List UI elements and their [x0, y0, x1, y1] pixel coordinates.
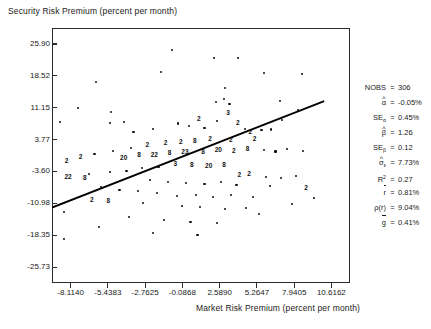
data-point-count: 8: [168, 150, 172, 157]
statistic-symbol: SEα: [356, 114, 389, 125]
data-point-count: 8: [201, 148, 205, 155]
statistic-equals: =: [389, 129, 396, 137]
data-point: [203, 183, 205, 185]
statistic-row: ^α=-0.05%: [356, 99, 430, 114]
data-point: [260, 129, 262, 131]
statistic-row: SEβ=0.12: [356, 144, 430, 159]
data-point: [123, 121, 125, 123]
y-tick-label: -3.60: [0, 166, 58, 176]
data-point: [152, 232, 154, 234]
data-point-count: 2: [237, 172, 241, 179]
statistic-value: 306: [396, 84, 411, 92]
y-tick-label: 25.90: [0, 39, 58, 49]
statistic-equals: =: [389, 219, 396, 227]
data-point: [252, 196, 254, 198]
data-point: [263, 72, 265, 74]
data-point: [77, 107, 79, 109]
data-point: [93, 153, 95, 155]
x-tick-label: 10.6162: [301, 288, 361, 297]
data-point-count: 3: [226, 109, 230, 116]
data-point: [156, 192, 158, 194]
statistic-row: g=0.41%: [356, 219, 430, 234]
statistic-value: 1.26: [396, 129, 413, 137]
statistic-value: -0.05%: [396, 99, 422, 107]
data-point: [149, 179, 151, 181]
data-layer: 322222282222223820288228203820822822228: [52, 28, 350, 283]
data-point-count: 8: [137, 152, 141, 159]
data-point: [88, 173, 90, 175]
statistic-row: NOBS=306: [356, 84, 430, 99]
data-point: [297, 109, 299, 111]
regression-line: [52, 28, 350, 283]
statistic-row: SEα=0.45%: [356, 114, 430, 129]
statistic-symbol: NOBS: [356, 84, 389, 92]
data-point-count: 2: [229, 137, 233, 144]
data-point: [220, 181, 222, 183]
statistic-symbol: SEβ: [356, 144, 389, 155]
data-point: [301, 73, 303, 75]
scatter-plot-figure: Security Risk Premium (percent per month…: [0, 0, 431, 329]
data-point: [163, 219, 165, 221]
x-tick-mark: [182, 283, 183, 288]
y-tick-label: -18.35: [0, 230, 58, 240]
data-point: [228, 103, 230, 105]
data-point: [95, 81, 97, 83]
data-point: [132, 131, 134, 133]
statistic-equals: =: [389, 144, 396, 152]
data-point: [137, 190, 139, 192]
statistic-symbol: ^α: [356, 99, 389, 107]
x-tick-mark: [256, 283, 257, 288]
data-point-count: 8: [107, 198, 111, 205]
data-point: [224, 208, 226, 210]
data-point: [265, 176, 267, 178]
data-point: [109, 171, 111, 173]
data-point: [235, 184, 237, 186]
data-point: [160, 71, 162, 73]
x-tick-mark: [294, 283, 295, 288]
data-point: [212, 196, 214, 198]
data-point-count: 2: [146, 142, 150, 149]
statistic-value: 7.73%: [396, 159, 419, 167]
statistic-value: 0.12: [396, 144, 413, 152]
data-point: [195, 194, 197, 196]
data-point: [98, 226, 100, 228]
statistic-equals: =: [389, 99, 396, 107]
data-point: [63, 238, 65, 240]
data-point: [291, 203, 293, 205]
data-point: [269, 185, 271, 187]
data-point: [181, 205, 183, 207]
statistic-value: 0.45%: [396, 114, 419, 122]
data-point: [302, 150, 304, 152]
data-point: [216, 222, 218, 224]
statistic-row: r=0.81%: [356, 189, 430, 204]
data-point: [223, 98, 225, 100]
data-point: [270, 128, 272, 130]
data-point: [125, 170, 127, 172]
data-point-count: 8: [222, 161, 226, 168]
data-point-count: 23: [181, 149, 188, 156]
statistic-row: R2=0.27: [356, 174, 430, 189]
data-point-count: 8: [193, 138, 197, 145]
data-point: [130, 147, 132, 149]
data-point-count: 8: [246, 146, 250, 153]
statistic-value: 9.04%: [396, 204, 419, 212]
data-point: [167, 181, 169, 183]
data-point-count: 3: [173, 161, 177, 168]
data-point-count: 2: [249, 129, 253, 136]
statistic-symbol: ^β: [356, 129, 389, 137]
data-point: [152, 128, 154, 130]
statistic-row: ^β=1.26: [356, 129, 430, 144]
data-point-count: 2: [90, 196, 94, 203]
statistic-equals: =: [389, 189, 396, 197]
y-tick-label: -25.73: [0, 262, 58, 272]
y-axis-title: Security Risk Premium (percent per month…: [8, 6, 177, 16]
data-point: [177, 122, 179, 124]
statistic-symbol: r: [356, 189, 389, 197]
data-point: [274, 150, 276, 152]
statistic-symbol: ^σε: [356, 159, 389, 170]
data-point-count: 2: [65, 158, 69, 165]
data-point-count: 2: [232, 148, 236, 155]
statistic-row: ^σε=7.73%: [356, 159, 430, 174]
statistic-equals: =: [389, 159, 396, 167]
data-point: [230, 194, 232, 196]
